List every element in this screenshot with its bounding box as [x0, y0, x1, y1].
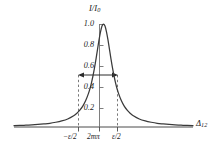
y-tick-label-5: 0.2	[70, 104, 94, 112]
x-tick-label-right: ε/2	[112, 133, 121, 140]
y-tick-label-2: 0.8	[70, 41, 94, 49]
y-axis-title-subscript: 0	[97, 6, 100, 13]
x-tick-label-center: 2mπ	[87, 133, 100, 140]
lorentzian-plot-figure: 1.0 0.8 0.6 0.4 0.2 −ε/2 2mπ ε/2 I/I0 Δ1…	[0, 0, 214, 152]
y-axis-title: I/I0	[89, 4, 100, 14]
x-axis-title-subscript: 12	[201, 121, 207, 128]
fwhm-arrow	[78, 72, 118, 77]
x-axis-title: Δ12	[196, 119, 207, 129]
y-tick-label-3: 0.6	[70, 62, 94, 70]
y-tick-label-1: 1.0	[70, 20, 94, 28]
y-axis-title-main: I/I	[89, 3, 97, 13]
x-tick-label-left: −ε/2	[63, 133, 77, 140]
plot-canvas	[0, 0, 214, 152]
x-tick-marks	[79, 127, 118, 132]
y-tick-label-4: 0.4	[70, 83, 94, 91]
